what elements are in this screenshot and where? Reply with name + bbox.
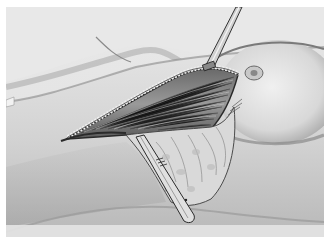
nipple-center xyxy=(251,70,258,76)
illustration-frame xyxy=(6,7,324,237)
surgical-illustration xyxy=(6,7,324,237)
